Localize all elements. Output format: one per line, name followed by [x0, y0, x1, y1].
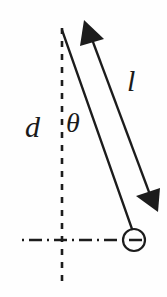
vertical-distance-label: d — [25, 112, 40, 142]
length-label: l — [127, 66, 135, 96]
angle-label: θ — [66, 109, 80, 137]
pendulum-diagram: d θ l — [0, 0, 167, 297]
length-arrow-shaft — [90, 34, 152, 200]
pendulum-diagram-canvas — [0, 0, 167, 297]
length-arrow-head-upper — [80, 20, 104, 46]
